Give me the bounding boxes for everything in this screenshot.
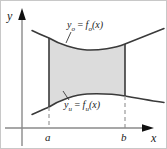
y-axis-label: y (7, 10, 12, 22)
upper-curve-equals: = (75, 19, 86, 30)
figure-region-between-curves: y x a b yo = fo(x) yu = fu(x) (0, 0, 167, 149)
lower-curve-arg: (x) (89, 99, 100, 110)
lower-curve-label: yu = fu(x) (64, 100, 100, 113)
upper-label-leader (66, 32, 71, 43)
tick-label-a: a (45, 132, 51, 143)
y-axis-arrowhead (18, 8, 26, 20)
x-axis-label: x (151, 132, 156, 144)
tick-label-b: b (121, 132, 127, 143)
shaded-region (49, 38, 125, 107)
lower-curve-equals: = (72, 99, 83, 110)
upper-curve-arg: (x) (92, 19, 103, 30)
upper-curve-label: yo = fo(x) (67, 20, 103, 33)
